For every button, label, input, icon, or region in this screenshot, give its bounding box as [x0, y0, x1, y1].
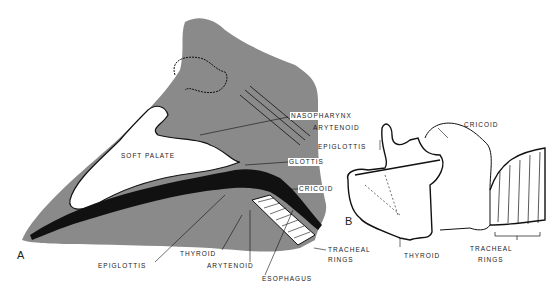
label-esophagus: ESOPHAGUS	[262, 275, 312, 283]
panel-letter-a: A	[17, 249, 24, 261]
label-tracheal-rings-a-2: RINGS	[328, 256, 354, 264]
label-nasopharynx: NASOPHARYNX	[290, 112, 353, 120]
label-arytenoid-b: ARYTENOID	[313, 124, 360, 132]
label-thyroid-b: THYROID	[404, 252, 440, 260]
label-tracheal-rings-b-2: RINGS	[478, 256, 504, 264]
label-cricoid: CRICOID	[298, 185, 334, 193]
label-epiglottis-b: EPIGLOTTIS	[318, 143, 366, 151]
larynx-lateral-view	[348, 123, 545, 247]
label-tracheal-rings-a-1: TRACHEAL	[328, 246, 371, 254]
label-epiglottis-a: EPIGLOTTIS	[98, 262, 146, 270]
label-arytenoid-a: ARYTENOID	[207, 262, 254, 270]
label-tracheal-rings-b-1: TRACHEAL	[470, 245, 513, 253]
label-glottis: GLOTTIS	[288, 158, 325, 166]
label-soft-palate: SOFT PALATE	[121, 152, 175, 160]
label-thyroid-a: THYROID	[180, 250, 216, 258]
panel-letter-b: B	[345, 215, 352, 227]
label-cricoid-b: CRICOID	[464, 121, 498, 129]
